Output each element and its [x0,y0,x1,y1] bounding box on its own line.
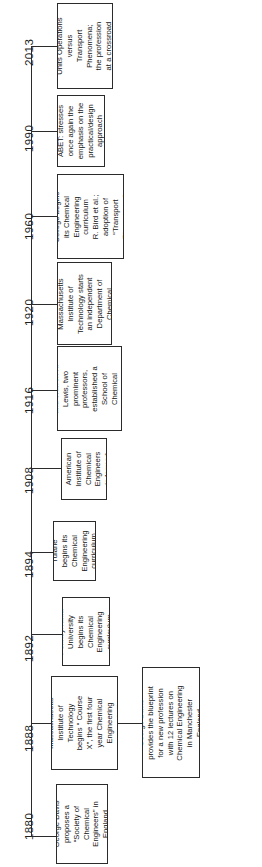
tick-1894 [31,552,53,553]
tick-1888 [31,723,51,724]
year-label-1894: 1894 [23,551,35,578]
event-text-1960: Manhattan College begins its Chemical En… [57,177,124,257]
event-text-1908: The American Institute of Chemical Engin… [61,440,107,498]
year-label-1908: 1908 [23,467,35,494]
event-text-2013: Units Operations versus Transport Phenom… [57,6,113,86]
year-label-1920: 1920 [23,299,35,326]
tick-2013 [31,46,57,47]
event-text-1880: George Davis proposes a “Society of Chem… [56,788,108,860]
event-box-1892: Pennsylvania University begins its Chemi… [62,597,110,666]
tick-1916 [31,390,57,391]
event-box-1888-davis: George Davis provides the blueprint for … [142,667,200,778]
tick-1880 [31,836,56,837]
event-box-1960: Manhattan College begins its Chemical En… [57,174,124,259]
event-text-1916: William H. Walker and Warren K. Lewis, t… [57,349,122,429]
year-label-1990: 1990 [23,125,35,152]
event-box-1888-mit: The Massachusetts Institute of Technolog… [51,676,118,770]
tick-1892 [31,634,62,635]
tick-1990 [31,131,57,132]
event-box-2013: Units Operations versus Transport Phenom… [57,3,113,89]
tick-1920 [31,304,57,305]
timeline-diagram: 2013 Units Operations versus Transport P… [0,0,262,867]
event-text-1888-mit: The Massachusetts Institute of Technolog… [51,679,118,767]
event-text-1990: ABET: stresses once again the emphasis o… [57,98,105,164]
event-box-1908: The American Institute of Chemical Engin… [61,438,107,500]
event-box-1990: ABET: stresses once again the emphasis o… [57,95,105,167]
timeline-axis [31,46,32,836]
event-box-1880: George Davis proposes a “Society of Chem… [56,784,108,864]
year-label-1888: 1888 [23,725,35,752]
event-text-1888-davis: George Davis provides the blueprint for … [142,671,200,775]
tick-1960 [31,216,57,217]
event-box-1916: William H. Walker and Warren K. Lewis, t… [57,346,122,431]
year-label-2013: 2013 [23,39,35,66]
tick-1908 [31,468,61,469]
year-label-1892: 1892 [23,635,35,662]
event-box-1920: The Massachusetts Institute of Technolog… [57,262,112,345]
tick-1888-secondary [118,723,142,724]
event-text-1894: Tulane begins its Chemical Engineering c… [53,524,96,578]
event-box-1894: Tulane begins its Chemical Engineering c… [53,521,96,581]
event-text-1920: The Massachusetts Institute of Technolog… [57,265,112,343]
event-text-1892: Pennsylvania University begins its Chemi… [62,601,110,663]
